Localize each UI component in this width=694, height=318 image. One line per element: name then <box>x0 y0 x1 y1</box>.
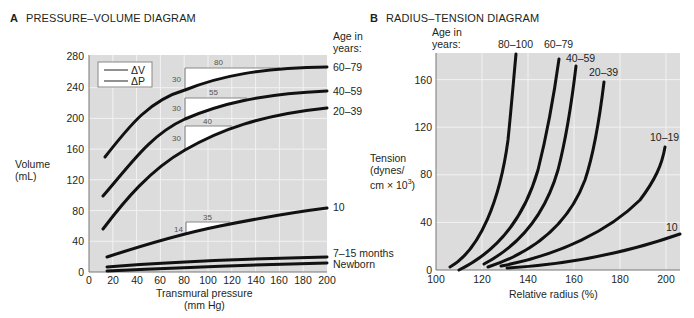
panel-a-xlabel-1: Transmural pressure <box>156 287 252 299</box>
series-label-b: 60–79 <box>544 38 573 50</box>
series-label-a: 60–79 <box>333 61 362 73</box>
plot-a <box>89 55 327 272</box>
panel-b-ylabel-2: (dynes/ <box>370 164 404 176</box>
b-ytick: 160 <box>402 74 432 86</box>
a-ytick: 80 <box>54 205 84 217</box>
panel-b-xlabel: Relative radius (%) <box>509 288 598 300</box>
annotation-dv: 35 <box>203 213 212 222</box>
panel-a-title-text: PRESSURE–VOLUME DIAGRAM <box>26 12 196 24</box>
series-label-b: 20–39 <box>589 66 618 78</box>
panel-b-ylabel-1: Tension <box>370 152 406 164</box>
a-ytick: 160 <box>54 143 84 155</box>
a-ytick: 240 <box>54 81 84 93</box>
panel-a-age-header-1: Age in <box>333 30 363 42</box>
panel-a-age-header-2: years: <box>333 42 362 54</box>
a-ytick: 280 <box>54 50 84 62</box>
panel-a-letter: A <box>10 12 18 24</box>
b-ytick: 80 <box>402 168 432 180</box>
series-label-b: 40–59 <box>566 52 595 64</box>
annotation-dv: 80 <box>214 58 223 67</box>
a-xtick: 200 <box>312 274 342 286</box>
annotation-dp: 14 <box>174 225 183 234</box>
b-xtick: 200 <box>651 273 681 285</box>
series-label-a: Newborn <box>333 258 375 270</box>
annotation-dv: 55 <box>209 88 218 97</box>
panel-b-age-header-2: years: <box>432 38 461 50</box>
panel-a-ylabel-1: Volume <box>15 158 50 170</box>
panel-b-title-text: RADIUS–TENSION DIAGRAM <box>386 12 539 24</box>
a-ytick: 120 <box>54 174 84 186</box>
b-xtick: 100 <box>421 273 451 285</box>
panel-b-title: BRADIUS–TENSION DIAGRAM <box>370 12 539 24</box>
series-label-a: 20–39 <box>333 105 362 117</box>
annotation-dp: 30 <box>172 134 181 143</box>
a-ytick: 200 <box>54 112 84 124</box>
series-label-b: 80–100 <box>498 38 533 50</box>
series-label-a: 10 <box>333 201 345 213</box>
a-ytick: 40 <box>54 235 84 247</box>
annotation-dv: 40 <box>203 117 212 126</box>
plot-b <box>436 53 680 270</box>
annotation-dp: 30 <box>172 104 181 113</box>
b-xtick: 160 <box>559 273 589 285</box>
panel-a-xlabel-2: (mm Hg) <box>184 299 225 311</box>
panel-a-title: APRESSURE–VOLUME DIAGRAM <box>10 12 196 24</box>
b-xtick: 140 <box>513 273 543 285</box>
panel-a-ylabel-2: (mL) <box>15 170 37 182</box>
series-label-a: 40–59 <box>333 85 362 97</box>
panel-b-age-header-1: Age in <box>432 26 462 38</box>
series-label-b: 10–19 <box>650 131 679 143</box>
series-label-b: 10 <box>666 221 678 233</box>
panel-b-letter: B <box>370 12 378 24</box>
inset-legend-dp: ΔP <box>131 75 145 87</box>
b-ytick: 120 <box>402 121 432 133</box>
b-ytick: 40 <box>402 216 432 228</box>
b-xtick: 180 <box>605 273 635 285</box>
annotation-dp: 30 <box>172 75 181 84</box>
b-xtick: 120 <box>467 273 497 285</box>
